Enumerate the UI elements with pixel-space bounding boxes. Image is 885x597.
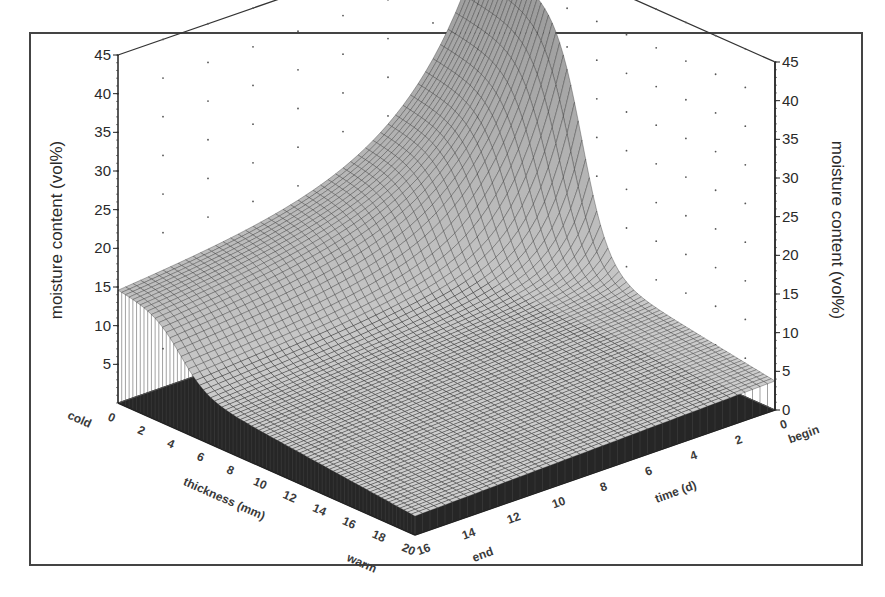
grid-dot [432, 22, 434, 24]
grid-dot [744, 203, 746, 205]
z-axis-title-left: moisture content (vol%) [47, 141, 66, 320]
grid-dot [342, 15, 344, 17]
grid-dot [252, 7, 254, 9]
time-tick-label: 2 [733, 432, 744, 448]
grid-dot [715, 228, 717, 230]
time-axis-title: time (d) [653, 478, 699, 506]
grid-dot [387, 38, 389, 40]
grid-dot [207, 62, 209, 64]
grid-dot [162, 193, 164, 195]
grid-dot [744, 319, 746, 321]
grid-dot [715, 189, 717, 191]
z-tick-label-left: 40 [94, 85, 111, 102]
z-tick-label-right: 15 [782, 285, 799, 302]
grid-dot [207, 23, 209, 25]
grid-dot [626, 72, 628, 74]
grid-dot [626, 188, 628, 190]
grid-dot [596, 59, 598, 61]
time-tick-label: 8 [598, 479, 609, 495]
grid-dot [655, 163, 657, 165]
thickness-tick-label: 10 [251, 474, 269, 492]
thickness-tick-label: 16 [340, 514, 358, 532]
grid-dot [744, 164, 746, 166]
grid-dot [297, 30, 299, 32]
grid-dot [162, 116, 164, 118]
grid-dot [162, 77, 164, 79]
grid-dot [252, 201, 254, 203]
thickness-tick-label: 18 [370, 527, 388, 545]
grid-dot [685, 99, 687, 101]
grid-dot [715, 35, 717, 37]
grid-dot [297, 185, 299, 187]
grid-dot [297, 108, 299, 110]
thickness-tick-label: 2 [135, 423, 147, 439]
grid-dot [626, 111, 628, 113]
grid-dot [744, 48, 746, 50]
time-tick-label: 10 [550, 493, 568, 511]
thickness-tick-label: 14 [311, 501, 329, 519]
grid-dot [626, 34, 628, 36]
grid-dot [744, 125, 746, 127]
grid-dot [387, 0, 389, 1]
z-tick-label-right: 20 [782, 246, 799, 263]
grid-dot [685, 22, 687, 24]
begin-label: begin [786, 422, 821, 446]
grid-dot [596, 175, 598, 177]
time-tick-label: 0 [778, 416, 789, 432]
z-tick-label-left: 10 [94, 317, 111, 334]
grid-dot [596, 21, 598, 23]
z-tick-label-right: 0 [782, 401, 790, 418]
grid-dot [685, 215, 687, 217]
grid-dot [252, 162, 254, 164]
thickness-tick-label: 8 [225, 462, 237, 478]
grid-dot [744, 357, 746, 359]
thickness-tick-label: 0 [106, 410, 118, 426]
grid-dot [715, 267, 717, 269]
z-tick-label-left: 5 [103, 355, 111, 372]
grid-dot [655, 124, 657, 126]
cold-label: cold [66, 408, 94, 431]
grid-dot [207, 139, 209, 141]
grid-dot [744, 280, 746, 282]
grid-dot [655, 240, 657, 242]
grid-dot [685, 292, 687, 294]
grid-dot [566, 46, 568, 48]
grid-dot [655, 86, 657, 88]
thickness-tick-label: 4 [165, 436, 177, 452]
grid-dot [715, 73, 717, 75]
end-label: end [470, 544, 495, 564]
z-tick-label-right: 30 [782, 169, 799, 186]
time-tick-label: 14 [460, 525, 478, 543]
grid-dot [162, 38, 164, 40]
grid-dot [685, 60, 687, 62]
z-tick-label-right: 45 [782, 53, 799, 70]
grid-dot [655, 279, 657, 281]
grid-dot [626, 266, 628, 268]
grid-dot [566, 7, 568, 9]
grid-dot [387, 115, 389, 117]
warm-label: warm [344, 550, 379, 576]
grid-dot [655, 8, 657, 10]
z-tick-label-left: 25 [94, 201, 111, 218]
z-tick-label-right: 10 [782, 324, 799, 341]
grid-dot [387, 76, 389, 78]
time-tick-label: 12 [505, 509, 523, 527]
z-axis-title-right: moisture content (vol%) [828, 141, 847, 320]
grid-dot [596, 98, 598, 100]
grid-dot [342, 92, 344, 94]
surface-chart: 5101520253035404505101520253035404502468… [0, 0, 885, 597]
thickness-tick-label: 12 [281, 487, 299, 505]
grid-dot [342, 53, 344, 55]
grid-dot [162, 154, 164, 156]
grid-dot [715, 305, 717, 307]
grid-dot [207, 100, 209, 102]
time-tick-label: 16 [415, 540, 433, 558]
grid-dot [715, 151, 717, 153]
z-tick-label-right: 35 [782, 130, 799, 147]
thickness-tick-label: 6 [195, 449, 207, 465]
grid-dot [596, 137, 598, 139]
grid-dot [252, 46, 254, 48]
grid-dot [655, 47, 657, 49]
grid-dot [715, 112, 717, 114]
z-tick-label-right: 40 [782, 92, 799, 109]
